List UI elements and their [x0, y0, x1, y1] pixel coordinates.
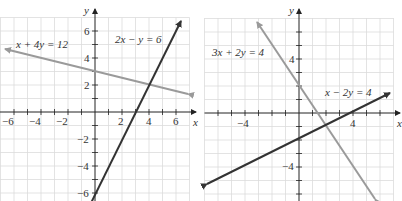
right-y-tick-label: −4	[282, 160, 294, 172]
left-x-tick-label: 2	[118, 115, 124, 127]
equation-label: x − 2y = 4	[324, 86, 372, 98]
equation-label: 3x + 2y = 4	[211, 46, 265, 58]
left-x-tick-label: 4	[146, 115, 152, 127]
figure: −6 −4 −2 2 4 6 6 4 2 −2 −4 −6 x y x + 4y…	[0, 0, 402, 201]
left-y-tick-label: −4	[77, 160, 89, 172]
line-2x-minus-y-eq-6	[91, 21, 181, 201]
left-y-tick-label: −2	[77, 133, 89, 145]
equation-label: 2x − y = 6	[115, 33, 162, 45]
left-graph: −6 −4 −2 2 4 6 6 4 2 −2 −4 −6 x y x + 4y…	[0, 4, 198, 201]
left-x-axis-label: x	[192, 116, 198, 128]
left-x-tick-label: −6	[2, 115, 14, 127]
left-y-tick-label: 2	[84, 79, 90, 91]
right-y-axis-label: y	[288, 4, 294, 16]
left-y-tick-label: 4	[84, 52, 90, 64]
right-graph: −4 4 4 −4 x y 3x + 2y = 4 x − 2y = 4	[205, 4, 402, 201]
right-x-axis-label: x	[396, 117, 402, 129]
right-y-tick-label: 4	[289, 53, 295, 65]
left-y-tick-label: 6	[84, 25, 90, 37]
right-x-tick-label: 4	[350, 117, 356, 129]
equation-label: x + 4y = 12	[15, 38, 69, 50]
left-x-tick-label: −2	[56, 115, 68, 127]
left-y-tick-label: −6	[77, 187, 89, 199]
left-y-axis-label: y	[83, 4, 89, 16]
left-x-tick-label: −4	[29, 115, 41, 127]
right-x-tick-label: −4	[237, 117, 249, 129]
left-x-tick-label: 6	[173, 115, 179, 127]
line-3x-plus-2y-eq-4	[257, 22, 375, 199]
